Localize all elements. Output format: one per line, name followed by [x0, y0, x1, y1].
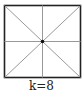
square-diagram — [0, 0, 83, 80]
k-label: k=8 — [0, 79, 83, 93]
center-point — [41, 40, 45, 44]
